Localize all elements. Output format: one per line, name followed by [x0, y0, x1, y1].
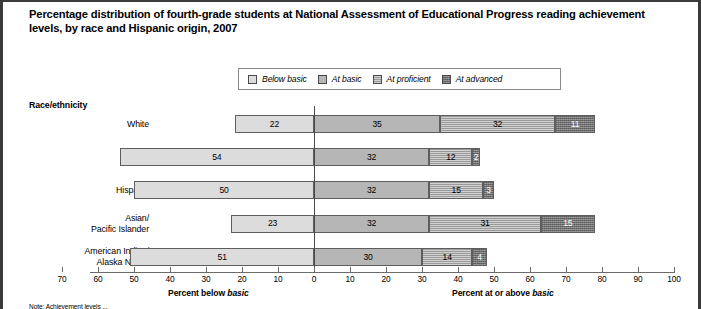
bar-segment-below: 51	[130, 248, 314, 266]
x-axis-tick	[458, 267, 459, 272]
x-axis-tick	[530, 267, 531, 272]
x-axis-tick-label: 60	[83, 274, 113, 284]
x-axis-tick	[134, 267, 135, 272]
x-axis-tick	[422, 267, 423, 272]
bar-segment-basic: 30	[314, 248, 422, 266]
bar-value-label: 32	[367, 219, 376, 228]
figure-frame: Percentage distribution of fourth-grade …	[0, 0, 701, 309]
bar-segment-basic: 32	[314, 148, 429, 166]
bar-segment-proficient: 31	[429, 215, 541, 233]
x-axis-tick	[638, 267, 639, 272]
bar-value-label: 50	[219, 186, 228, 195]
bar-segment-proficient: 32	[440, 115, 555, 133]
x-axis-tick-label: 20	[371, 274, 401, 284]
x-axis-tick	[314, 267, 315, 272]
table-row: 5130144	[3, 248, 701, 266]
x-axis-tick	[602, 267, 603, 272]
x-axis-tick	[242, 267, 243, 272]
table-row: 5432122	[3, 148, 701, 166]
bar-segment-proficient: 15	[429, 181, 483, 199]
plot-area: White22353211Black5432122Hispanic5032153…	[3, 2, 701, 309]
x-axis-tick-label: 40	[443, 274, 473, 284]
x-axis-tick	[170, 267, 171, 272]
caption-text: Percent at or above	[452, 288, 532, 298]
bar-segment-advanced: 2	[472, 148, 479, 166]
x-axis-tick-label: 10	[263, 274, 293, 284]
bar-value-label: 31	[480, 219, 489, 228]
table-row: 5032153	[3, 181, 701, 199]
bar-value-label: 30	[363, 253, 372, 262]
x-axis-tick-label: 60	[515, 274, 545, 284]
bar-value-label: 12	[446, 153, 455, 162]
x-axis-tick-label: 50	[479, 274, 509, 284]
bar-value-label: 23	[268, 219, 277, 228]
bar-value-label: 11	[571, 120, 580, 129]
table-row: 22353211	[3, 115, 701, 133]
chart-note: Note: Achievement levels ...	[29, 303, 689, 309]
x-axis-tick-label: 10	[335, 274, 365, 284]
bar-value-label: 2	[474, 153, 479, 162]
x-axis-tick	[674, 267, 675, 272]
x-axis-tick-label: 80	[587, 274, 617, 284]
x-axis-tick	[566, 267, 567, 272]
bar-value-label: 14	[443, 253, 452, 262]
bar-segment-below: 23	[231, 215, 314, 233]
x-axis-tick-label: 100	[659, 274, 689, 284]
bar-value-label: 22	[270, 120, 279, 129]
x-axis-tick	[62, 267, 63, 272]
bar-value-label: 51	[218, 253, 227, 262]
bar-segment-advanced: 11	[555, 115, 595, 133]
bar-value-label: 35	[372, 120, 381, 129]
zero-reference-line	[314, 106, 315, 273]
x-axis-tick	[350, 267, 351, 272]
x-axis-tick-label: 30	[407, 274, 437, 284]
x-axis-caption-right: Percent at or above basic	[3, 288, 701, 298]
x-axis-tick-label: 90	[623, 274, 653, 284]
bar-segment-basic: 35	[314, 115, 440, 133]
x-axis-tick	[386, 267, 387, 272]
x-axis-tick	[494, 267, 495, 272]
bar-segment-basic: 32	[314, 181, 429, 199]
x-axis-tick-label: 70	[47, 274, 77, 284]
x-axis-tick	[206, 267, 207, 272]
x-axis-tick	[98, 267, 99, 272]
x-axis-tick-label: 20	[227, 274, 257, 284]
bar-segment-proficient: 14	[422, 248, 472, 266]
bar-segment-advanced: 3	[483, 181, 494, 199]
x-axis-tick-label: 70	[551, 274, 581, 284]
bar-segment-advanced: 4	[472, 248, 486, 266]
x-axis-tick-label: 0	[299, 274, 329, 284]
x-axis-tick	[278, 267, 279, 272]
bar-value-label: 32	[367, 186, 376, 195]
bar-segment-below: 22	[235, 115, 314, 133]
bar-segment-below: 50	[134, 181, 314, 199]
bar-value-label: 32	[493, 120, 502, 129]
x-axis-line	[90, 272, 675, 273]
bar-segment-proficient: 12	[429, 148, 472, 166]
bar-value-label: 54	[212, 153, 221, 162]
bar-value-label: 32	[367, 153, 376, 162]
x-axis-tick-label: 40	[155, 274, 185, 284]
bar-segment-basic: 32	[314, 215, 429, 233]
bar-value-label: 4	[477, 253, 482, 262]
bar-value-label: 3	[486, 186, 491, 195]
x-axis-tick-label: 30	[191, 274, 221, 284]
table-row: 23323115	[3, 215, 701, 233]
bar-segment-advanced: 15	[541, 215, 595, 233]
x-axis-tick-label: 50	[119, 274, 149, 284]
bar-value-label: 15	[452, 186, 461, 195]
caption-emphasis: basic	[532, 288, 553, 298]
bar-segment-below: 54	[120, 148, 314, 166]
bar-value-label: 15	[563, 219, 572, 228]
